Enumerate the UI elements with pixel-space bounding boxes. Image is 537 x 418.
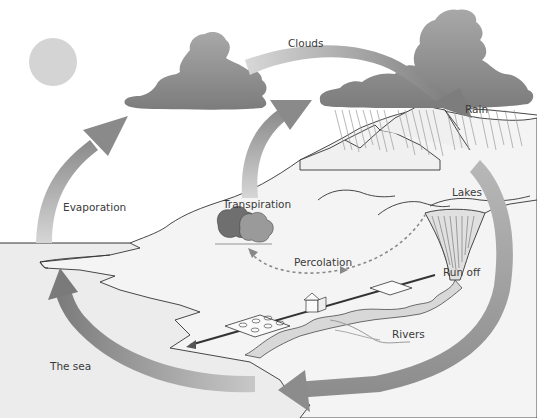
- evaporation-arrow: [36, 116, 128, 243]
- label-rivers: Rivers: [392, 328, 425, 340]
- label-transpiration: Transpiration: [222, 198, 291, 210]
- label-evaporation: Evaporation: [63, 201, 126, 213]
- water-cycle-diagram: Clouds Rain Evaporation Transpiration La…: [0, 0, 537, 418]
- cloud-left: [124, 32, 266, 110]
- label-rain: Rain: [465, 103, 488, 115]
- label-percolation: Percolation: [294, 256, 352, 268]
- label-clouds: Clouds: [288, 37, 323, 49]
- label-lakes: Lakes: [452, 186, 482, 198]
- sun-icon: [29, 38, 77, 86]
- label-run-off: Run off: [443, 266, 481, 278]
- label-the-sea: The sea: [49, 360, 91, 372]
